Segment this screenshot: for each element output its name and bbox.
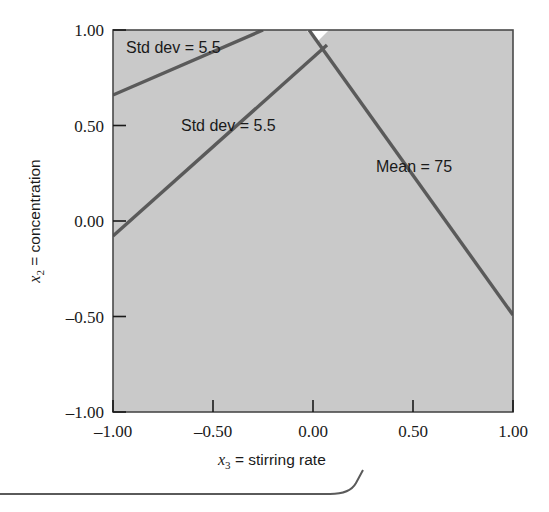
x-axis-title: x3 = stirring rate [217,451,326,471]
x-axis-title-symbol: x [217,451,225,468]
y-tick-label-3: –0.50 [65,308,104,327]
annotation-std-dev-upper: Std dev = 5.5 [126,39,221,56]
y-axis-title-symbol: x [26,276,43,284]
annotation-mean: Mean = 75 [376,158,452,175]
plot-area-background [113,30,513,412]
svg-text:x2 = concentration: x2 = concentration [26,159,46,283]
y-tick-label-4: –1.00 [65,403,104,422]
page-border-curve [0,470,363,494]
x-tick-label-3: 0.50 [398,422,428,441]
y-tick-label-0: 1.00 [74,21,104,40]
svg-text:x3 = stirring rate: x3 = stirring rate [217,451,326,471]
y-tick-label-1: 0.50 [74,117,104,136]
annotation-std-dev-lower: Std dev = 5.5 [181,117,276,134]
y-axis-title-text: = concentration [26,159,43,270]
x-tick-label-1: –0.50 [193,422,232,441]
x-axis-title-text: = stirring rate [231,451,326,468]
contour-plot-figure: 1.00 0.50 0.00 –0.50 –1.00 –1.00 –0.50 0… [0,0,549,512]
y-tick-label-2: 0.00 [74,212,104,231]
chart-canvas: 1.00 0.50 0.00 –0.50 –1.00 –1.00 –0.50 0… [0,0,549,512]
x-tick-label-4: 1.00 [498,422,528,441]
x-tick-label-2: 0.00 [298,422,328,441]
y-axis-title: x2 = concentration [26,159,46,283]
x-tick-label-0: –1.00 [93,422,132,441]
